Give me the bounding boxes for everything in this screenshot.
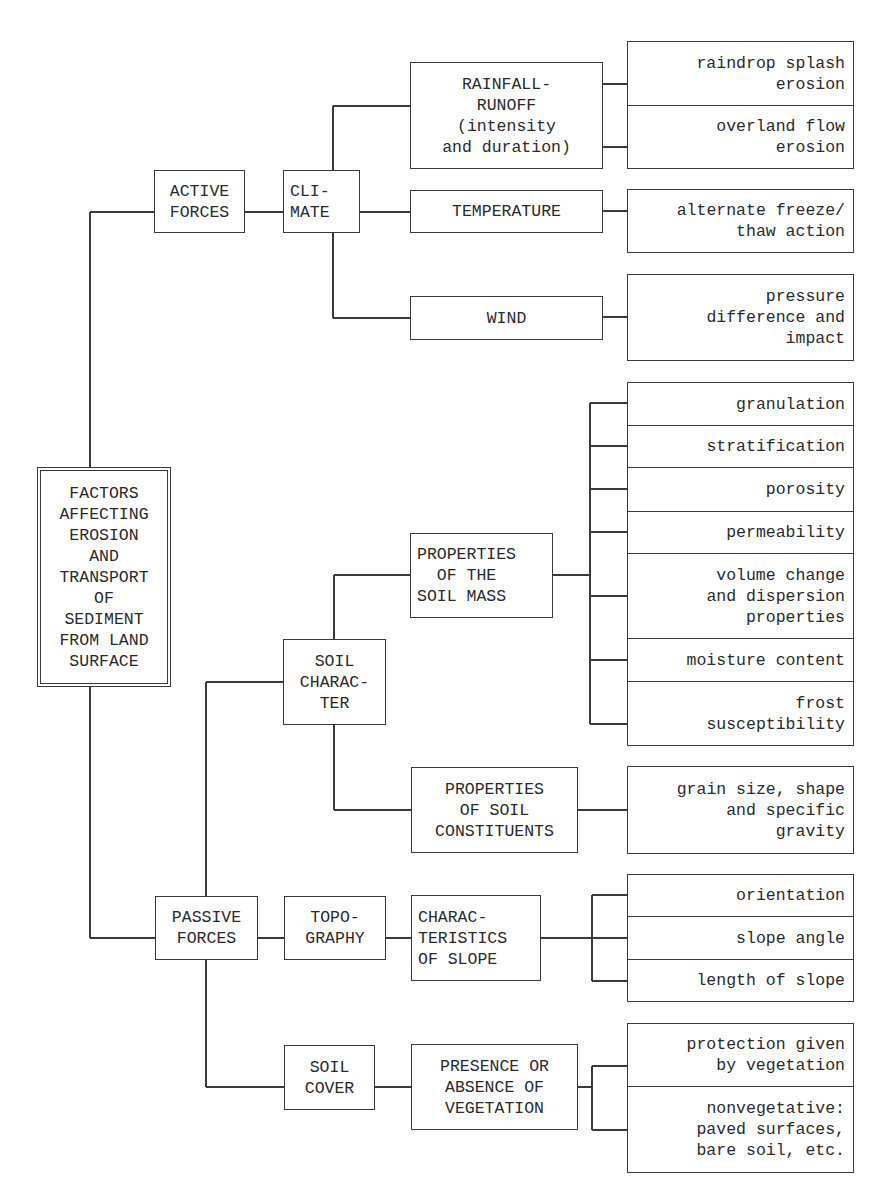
node-label-line: PROPERTIES	[445, 779, 544, 800]
node-label-line: FROM LAND	[59, 630, 148, 651]
connector-line	[578, 809, 627, 811]
connector-line	[590, 595, 627, 597]
connector-line	[590, 488, 627, 490]
node-label-line: erosion	[776, 137, 845, 158]
node-label-line: WIND	[487, 308, 527, 329]
connector-line	[603, 146, 627, 148]
node-vegetation-presence: PRESENCE ORABSENCE OFVEGETATION	[411, 1044, 578, 1130]
node-label-line: ABSENCE OF	[445, 1077, 544, 1098]
connector-line	[592, 1129, 627, 1131]
node-label-line: PASSIVE	[172, 907, 241, 928]
connector-line	[205, 682, 207, 896]
node-label-line: difference and	[706, 307, 845, 328]
node-active-forces: ACTIVEFORCES	[154, 170, 245, 233]
node-slope-characteristics: CHARAC-TERISTICSOF SLOPE	[411, 895, 541, 981]
node-temperature: TEMPERATURE	[410, 190, 603, 233]
node-label-line: volume change	[716, 565, 845, 586]
connector-line	[333, 317, 410, 319]
node-label-line: FORCES	[177, 928, 236, 949]
node-label-line: OF SLOPE	[418, 949, 534, 970]
connector-line	[590, 531, 627, 533]
node-label-line: EROSION	[69, 525, 138, 546]
connector-line	[590, 402, 627, 404]
connector-line	[603, 210, 627, 212]
connector-line	[90, 937, 155, 939]
node-label-line: SOIL	[315, 651, 355, 672]
node-granulation: granulation	[627, 382, 854, 426]
node-porosity: porosity	[627, 467, 854, 512]
node-label-line: granulation	[736, 394, 845, 415]
node-freeze-thaw: alternate freeze/thaw action	[627, 189, 854, 253]
node-label-line: OF	[94, 588, 114, 609]
node-label-line: AND	[89, 546, 119, 567]
node-volume-change: volume changeand dispersionproperties	[627, 553, 854, 639]
node-label-line: TERISTICS	[418, 928, 534, 949]
node-label-line: by vegetation	[716, 1055, 845, 1076]
node-label-line: SOIL	[310, 1057, 350, 1078]
node-label-line: MATE	[290, 202, 353, 223]
node-soil-character: SOILCHARAC-TER	[283, 639, 386, 725]
node-rainfall-runoff: RAINFALL-RUNOFF(intensityand duration)	[410, 62, 603, 169]
connector-line	[332, 233, 334, 318]
node-label-line: protection given	[687, 1034, 845, 1055]
node-label-line: erosion	[776, 74, 845, 95]
node-label-line: CHARAC-	[300, 672, 369, 693]
node-label-line: length of slope	[696, 970, 845, 991]
node-orientation: orientation	[627, 874, 854, 917]
connector-line	[333, 105, 410, 107]
node-label-line: frost	[795, 693, 845, 714]
node-label-line: grain size, shape	[677, 779, 845, 800]
node-overland-flow: overland flowerosion	[627, 105, 854, 169]
node-label-line: permeability	[726, 522, 845, 543]
node-label-line: slope angle	[736, 928, 845, 949]
node-frost-susceptibility: frostsusceptibility	[627, 681, 854, 746]
node-label-line: AFFECTING	[59, 504, 148, 525]
connector-line	[386, 937, 411, 939]
connector-line	[603, 316, 627, 318]
node-label-line: RAINFALL-	[462, 74, 551, 95]
connector-line	[541, 937, 627, 939]
node-label-line: paved surfaces,	[696, 1119, 845, 1140]
connector-line	[334, 574, 410, 576]
connector-line	[590, 445, 627, 447]
node-soil-cover: SOILCOVER	[284, 1045, 375, 1110]
node-label-line: RUNOFF	[477, 95, 536, 116]
node-topography: TOPO-GRAPHY	[284, 896, 386, 960]
node-label-line: FACTORS	[69, 483, 138, 504]
connector-line	[360, 211, 410, 213]
connector-line	[206, 681, 283, 683]
node-wind: WIND	[410, 296, 603, 340]
node-soil-mass: PROPERTIES OF THESOIL MASS	[410, 533, 553, 618]
node-label-line: thaw action	[736, 221, 845, 242]
node-stratification: stratification	[627, 425, 854, 468]
connector-line	[89, 687, 91, 938]
node-grain-size: grain size, shapeand specificgravity	[627, 766, 854, 854]
node-label-line: TEMPERATURE	[452, 201, 561, 222]
connector-line	[603, 83, 627, 85]
node-label-line: OF THE	[417, 565, 546, 586]
node-label-line: raindrop splash	[696, 53, 845, 74]
node-label-line: porosity	[766, 479, 845, 500]
node-label-line: TER	[320, 693, 350, 714]
node-label-line: SEDIMENT	[64, 609, 143, 630]
node-label-line: nonvegetative:	[706, 1098, 845, 1119]
connector-line	[590, 659, 627, 661]
node-passive-forces: PASSIVEFORCES	[155, 896, 258, 960]
node-nonvegetative: nonvegetative:paved surfaces,bare soil, …	[627, 1086, 854, 1173]
node-label-line: susceptibility	[706, 714, 845, 735]
connector-line	[590, 723, 627, 725]
node-label-line: FORCES	[170, 202, 229, 223]
connector-line	[206, 1086, 284, 1088]
node-label-line: and duration)	[442, 137, 571, 158]
connector-line	[592, 894, 627, 896]
node-length-of-slope: length of slope	[627, 959, 854, 1002]
node-label-line: CHARAC-	[418, 907, 534, 928]
node-label-line: alternate freeze/	[677, 200, 845, 221]
node-label-line: SURFACE	[69, 651, 138, 672]
connector-line	[258, 937, 284, 939]
node-label-line: ACTIVE	[170, 181, 229, 202]
node-permeability: permeability	[627, 511, 854, 554]
node-label-line: overland flow	[716, 116, 845, 137]
connector-line	[578, 1086, 592, 1088]
node-raindrop-splash: raindrop splasherosion	[627, 41, 854, 106]
